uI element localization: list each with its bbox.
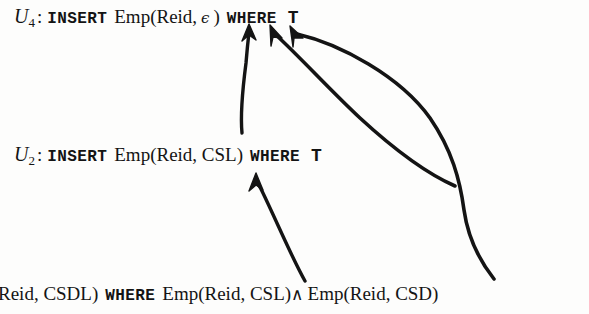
statement-u2-condition: T bbox=[311, 146, 322, 166]
statement-u1-condition-left: Emp(Reid, CSL) bbox=[162, 283, 291, 304]
arrow-cond-csl-to-u2-head bbox=[249, 173, 263, 191]
arrow-cond-csl-to-u2-shaft bbox=[257, 182, 305, 281]
statement-u4-label: U4 bbox=[14, 5, 35, 27]
arrow-cond-csd-to-u4-shaft bbox=[297, 34, 494, 279]
statement-u4-condition: T bbox=[288, 8, 299, 28]
statement-u4-relation: Emp(Reid, bbox=[114, 6, 197, 27]
statement-u2-insert-keyword: INSERT bbox=[47, 148, 107, 166]
statement-u4-colon: : bbox=[35, 6, 47, 27]
statement-u2-relation: Emp(Reid, CSL) bbox=[114, 144, 243, 165]
statement-u4-where-keyword: WHERE bbox=[227, 10, 277, 28]
arrow-u2-to-u4-shaft bbox=[241, 32, 249, 133]
statement-u4-epsilon-arg: ϵ bbox=[201, 9, 209, 27]
statement-u1-condition-connective: ∧ bbox=[291, 284, 303, 304]
statement-u2-where-keyword: WHERE bbox=[250, 148, 300, 166]
statement-u1-condition-right: Emp(Reid, CSD) bbox=[308, 283, 439, 304]
statement-u2-label: U2 bbox=[14, 143, 35, 165]
statement-u2-colon: : bbox=[35, 144, 47, 165]
statement-u4-insert-keyword: INSERT bbox=[47, 10, 107, 28]
statement-u1-relation: Reid, CSDL) bbox=[0, 283, 98, 304]
statement-u2: U2:INSERTEmp(Reid, CSL)WHERET bbox=[14, 144, 322, 167]
figure-canvas: U4:INSERTEmp(Reid,ϵ)WHERET U2:INSERTEmp(… bbox=[0, 0, 589, 314]
statement-u1-where-keyword: WHERE bbox=[105, 287, 155, 305]
statement-u4: U4:INSERTEmp(Reid,ϵ)WHERET bbox=[14, 6, 299, 29]
statement-u4-close-paren: ) bbox=[214, 6, 220, 27]
statement-u1-clipped: Reid, CSDL)WHEREEmp(Reid, CSL)∧Emp(Reid,… bbox=[0, 284, 438, 304]
arrow-cond-csd-to-u4-head bbox=[290, 26, 303, 47]
